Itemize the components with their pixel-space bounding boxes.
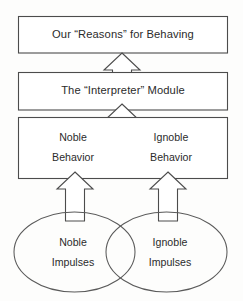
ellipse-ignoble-impulses <box>106 212 227 292</box>
box-behavior <box>19 118 228 179</box>
ellipse-noble-impulses <box>14 212 135 292</box>
diagram-canvas <box>0 0 243 301</box>
box-reasons <box>19 17 228 54</box>
diagram-root: Our “Reasons” for Behaving The “Interpre… <box>0 0 243 301</box>
arrow-ignoble-impulses-to-behavior <box>150 172 186 221</box>
arrow-noble-impulses-to-behavior <box>57 172 93 221</box>
